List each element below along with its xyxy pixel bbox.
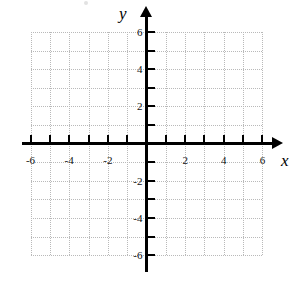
x-axis-tick (88, 135, 90, 144)
y-axis-tick (146, 124, 155, 126)
y-tick-label: 4 (119, 64, 143, 75)
y-axis-label: y (119, 5, 127, 22)
y-tick-label: -4 (119, 212, 143, 223)
x-tick-label: 4 (221, 155, 227, 166)
y-tick-label: -2 (119, 175, 143, 186)
x-axis-arrowhead (272, 137, 283, 149)
x-axis-tick (49, 135, 51, 144)
coordinate-plane: -6-4-2246642-2-4-6 x y (0, 0, 300, 283)
x-axis-tick (68, 135, 70, 144)
x-tick-label: -4 (65, 155, 74, 166)
y-axis-tick (146, 198, 155, 200)
x-axis-label: x (281, 152, 289, 169)
x-tick-label: 2 (182, 155, 188, 166)
y-tick-label: 6 (119, 26, 143, 37)
y-axis-tick (146, 180, 155, 182)
scan-artifact-speck (84, 1, 88, 5)
y-axis-tick (146, 236, 155, 238)
y-axis-line (145, 16, 148, 272)
y-axis-tick (146, 105, 155, 107)
x-axis-tick (203, 135, 205, 144)
x-axis-tick (165, 135, 167, 144)
x-axis-line (22, 142, 274, 145)
x-axis-tick (107, 135, 109, 144)
y-axis-arrowhead (140, 6, 152, 17)
y-axis-tick (146, 161, 155, 163)
x-axis-tick (242, 135, 244, 144)
y-axis-tick (146, 31, 155, 33)
y-tick-label: 2 (119, 101, 143, 112)
x-axis-tick (30, 135, 32, 144)
y-axis-tick (146, 50, 155, 52)
x-axis-tick (184, 135, 186, 144)
y-axis-tick (146, 217, 155, 219)
y-axis-tick (146, 68, 155, 70)
x-tick-label: 6 (260, 155, 266, 166)
x-axis-tick (261, 135, 263, 144)
x-axis-tick (223, 135, 225, 144)
y-axis-tick (146, 254, 155, 256)
x-tick-label: -6 (26, 155, 35, 166)
x-tick-label: -2 (103, 155, 112, 166)
y-axis-tick (146, 87, 155, 89)
y-tick-label: -6 (119, 250, 143, 261)
x-axis-tick (126, 135, 128, 144)
